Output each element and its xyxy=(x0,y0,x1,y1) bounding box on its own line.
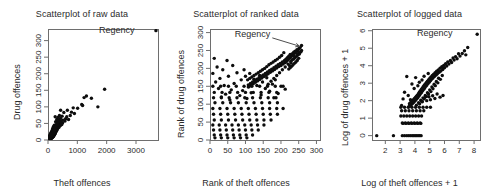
panel-ranked-data: Scatterplot of ranked data Rank of drug … xyxy=(164,0,328,196)
scatterplot-figure-panel-group: Scatterplot of raw data Drug offences Th… xyxy=(0,0,491,196)
svg-text:6: 6 xyxy=(442,146,447,155)
svg-text:0: 0 xyxy=(358,133,367,138)
svg-text:5: 5 xyxy=(358,45,367,50)
annotation-label-regency: Regency xyxy=(99,25,135,35)
annotation-label-regency: Regency xyxy=(417,28,453,38)
svg-text:100: 100 xyxy=(34,100,43,114)
svg-text:200: 200 xyxy=(34,67,43,81)
svg-text:300: 300 xyxy=(310,146,324,155)
svg-text:50: 50 xyxy=(196,117,205,126)
svg-text:300: 300 xyxy=(196,25,205,39)
svg-text:250: 250 xyxy=(196,43,205,57)
annotation-label-regency: Regency xyxy=(235,29,271,39)
plot-area-raw: 0100020003000050100150200250300Regency xyxy=(0,0,164,196)
svg-text:100: 100 xyxy=(196,97,205,111)
svg-text:3: 3 xyxy=(358,80,367,85)
svg-text:3: 3 xyxy=(398,146,403,155)
svg-text:6: 6 xyxy=(358,28,367,33)
svg-text:200: 200 xyxy=(196,61,205,75)
svg-text:50: 50 xyxy=(34,118,43,127)
svg-text:200: 200 xyxy=(274,146,288,155)
svg-text:300: 300 xyxy=(34,33,43,47)
svg-text:4: 4 xyxy=(358,63,367,68)
svg-text:1000: 1000 xyxy=(68,146,86,155)
svg-text:8: 8 xyxy=(472,146,477,155)
svg-text:50: 50 xyxy=(223,146,232,155)
panel-raw-data: Scatterplot of raw data Drug offences Th… xyxy=(0,0,164,196)
svg-text:250: 250 xyxy=(34,50,43,64)
svg-text:150: 150 xyxy=(196,79,205,93)
svg-text:3000: 3000 xyxy=(127,146,145,155)
svg-text:150: 150 xyxy=(34,83,43,97)
annotation-arrow xyxy=(272,38,299,46)
svg-text:250: 250 xyxy=(292,146,306,155)
svg-text:2: 2 xyxy=(383,146,388,155)
svg-text:0: 0 xyxy=(208,146,213,155)
svg-text:5: 5 xyxy=(427,146,432,155)
svg-text:150: 150 xyxy=(257,146,271,155)
svg-text:7: 7 xyxy=(457,146,462,155)
svg-text:0: 0 xyxy=(46,146,51,155)
svg-text:1: 1 xyxy=(358,115,367,120)
svg-text:4: 4 xyxy=(413,146,418,155)
panel-logged-data: Scatterplot of logged data Log of drug o… xyxy=(328,0,491,196)
svg-text:0: 0 xyxy=(34,137,43,142)
plot-area-logged: 23456780123456Regency xyxy=(328,0,491,196)
svg-text:2000: 2000 xyxy=(98,146,116,155)
svg-text:100: 100 xyxy=(239,146,253,155)
svg-text:0: 0 xyxy=(196,137,205,142)
svg-text:2: 2 xyxy=(358,98,367,103)
plot-area-ranked: 050100150200250300050100150200250300Rege… xyxy=(164,0,328,196)
